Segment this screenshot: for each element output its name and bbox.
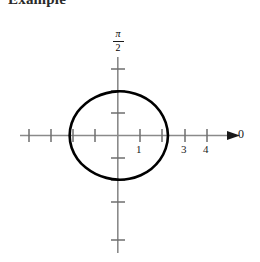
theta-zero-axis-label: 0: [238, 128, 244, 140]
polar-plot-svg: [0, 0, 260, 262]
x-axis-label-1: 1: [136, 144, 142, 155]
x-axis-label-4: 4: [203, 144, 209, 155]
screenshot-root: Example: [0, 0, 260, 262]
two-denominator: 2: [110, 43, 126, 54]
polar-plot-figure: [0, 0, 260, 262]
pi-numerator: π: [110, 29, 126, 40]
x-axis-label-3: 3: [181, 144, 187, 155]
pi-over-two-axis-label: π 2: [110, 29, 126, 53]
